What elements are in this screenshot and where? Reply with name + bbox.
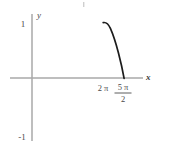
coordinate-plot: y x 1 -1 2 π 5 π 2 xyxy=(0,0,169,153)
fraction-numerator: 5 π xyxy=(118,82,129,92)
plot-background xyxy=(0,0,169,153)
x-tick-label-two-pi: 2 π xyxy=(98,83,109,93)
y-tick-label-one: 1 xyxy=(21,19,26,29)
y-axis-label: y xyxy=(36,10,41,20)
fraction-denominator: 2 xyxy=(121,94,125,104)
y-tick-label-negative-one: -1 xyxy=(18,132,26,142)
x-axis-label: x xyxy=(145,72,151,82)
graph-figure: y x 1 -1 2 π 5 π 2 xyxy=(0,0,169,153)
scan-artifact-speck xyxy=(83,2,84,7)
